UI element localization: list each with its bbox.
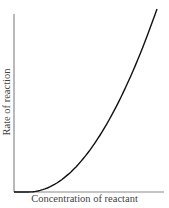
x-axis-label: Concentration of reactant (0, 193, 169, 205)
y-axis-label: Rate of reaction (1, 57, 13, 147)
rate-vs-concentration-chart (0, 0, 169, 208)
rate-curve (14, 9, 157, 192)
